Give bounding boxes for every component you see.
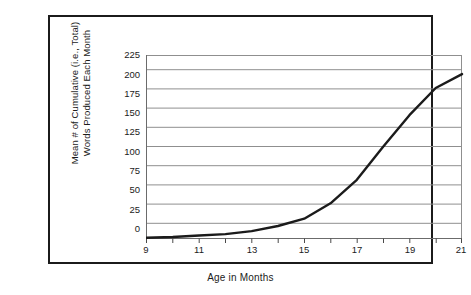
x-tick-label-13: 13	[237, 244, 267, 255]
chart-frame: Mean # of Cumulative (i.e., Total) Words…	[48, 15, 433, 264]
y-tick-label-25: 25	[106, 205, 140, 215]
x-tick-label-9: 9	[131, 244, 161, 255]
y-axis-title-line-1: Mean # of Cumulative (i.e., Total)	[69, 0, 81, 188]
x-tick-label-19: 19	[395, 244, 425, 255]
x-tick-label-17: 17	[342, 244, 372, 255]
y-tick-label-50: 50	[106, 185, 140, 195]
y-tick-label-200: 200	[106, 70, 140, 80]
series-line-mean-cumulative-words	[147, 74, 463, 238]
y-tick-label-75: 75	[106, 166, 140, 176]
x-axis-title: Age in Months	[48, 272, 433, 283]
plot-svg	[146, 55, 466, 245]
x-tick-label-15: 15	[289, 244, 319, 255]
y-tick-label-0: 0	[106, 224, 140, 234]
y-tick-label-225: 225	[106, 50, 140, 60]
x-axis-tick-labels: 9 11 13 15 17 19 21	[146, 244, 462, 258]
y-axis-tick-labels: 225 200 175 150 125 100 75 50 25 0	[104, 55, 140, 239]
x-tick-label-21: 21	[446, 244, 471, 255]
y-tick-label-150: 150	[106, 108, 140, 118]
y-axis-title-line-2: Words Produced Each Month	[81, 0, 93, 188]
y-axis-title: Mean # of Cumulative (i.e., Total) Words…	[69, 0, 101, 188]
y-tick-label-100: 100	[106, 147, 140, 157]
plot-area	[146, 55, 462, 239]
y-tick-label-175: 175	[106, 89, 140, 99]
y-tick-label-125: 125	[106, 127, 140, 137]
x-tick-label-11: 11	[184, 244, 214, 255]
